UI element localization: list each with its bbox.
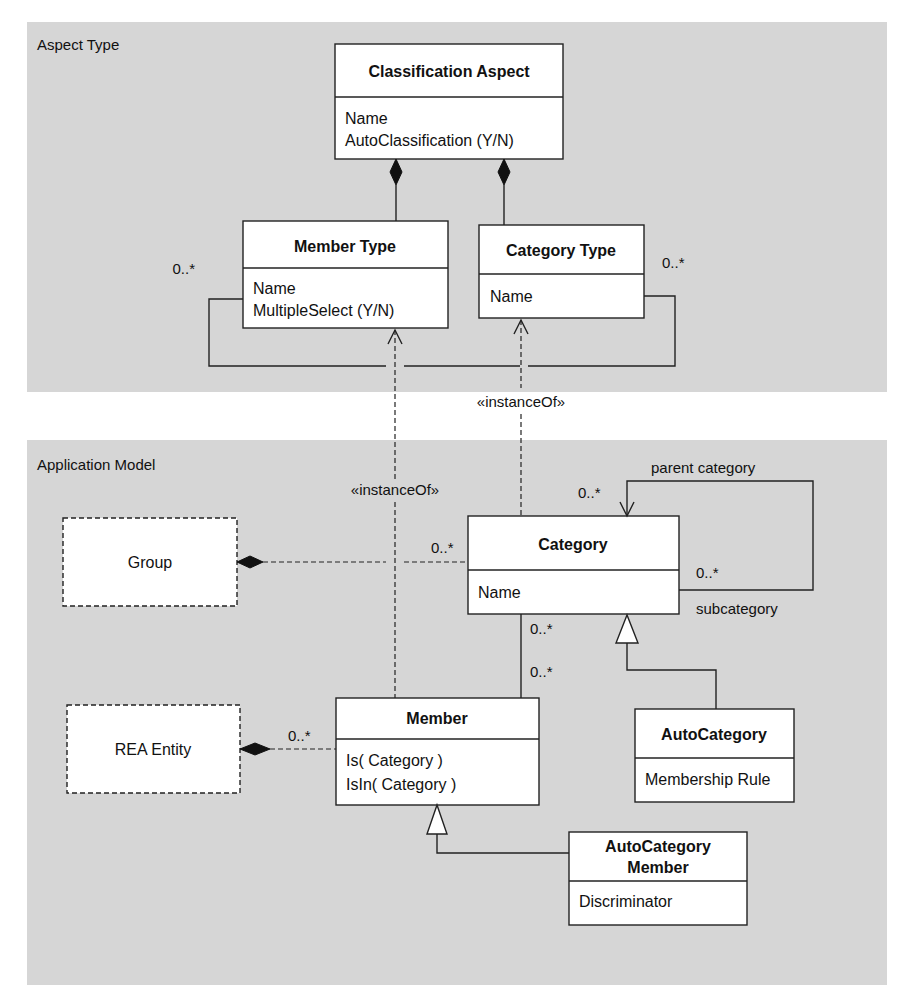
multiplicity-label: 0..* [172,260,195,277]
class-name: REA Entity [115,741,191,758]
multiplicity-label: 0..* [530,620,553,637]
application-model-title: Application Model [37,456,155,473]
class-auto-category: AutoCategory Membership Rule [635,709,794,802]
class-attribute: Name [490,288,533,305]
class-category-type: Category Type Name [479,225,644,318]
class-member-type: Member Type Name MultipleSelect (Y/N) [243,221,448,328]
multiplicity-label: 0..* [431,539,454,556]
class-attribute: Is( Category ) [346,752,443,769]
class-member: Member Is( Category ) IsIn( Category ) [336,698,539,805]
stereotype-label: «instanceOf» [477,393,565,410]
multiplicity-label: 0..* [578,484,601,501]
class-attribute: Name [478,584,521,601]
class-attribute: Name [345,110,388,127]
class-name-line: AutoCategory [605,838,711,855]
aspect-type-title: Aspect Type [37,36,119,53]
class-attribute: Discriminator [579,893,673,910]
class-name-line: Member [627,859,688,876]
class-attribute: Membership Rule [645,771,770,788]
multiplicity-label: 0..* [662,254,685,271]
class-name: Category Type [506,242,616,259]
multiplicity-label: 0..* [696,564,719,581]
class-classification-aspect: Classification Aspect Name AutoClassific… [335,44,563,159]
class-category: Category Name [468,516,679,614]
multiplicity-label: 0..* [530,663,553,680]
uml-class-diagram: Aspect Type Application Model Classifica… [0,0,904,1001]
class-attribute: IsIn( Category ) [346,776,456,793]
class-rea-entity: REA Entity [67,705,240,793]
class-name: Member [406,710,467,727]
role-label: subcategory [696,600,778,617]
class-name: Classification Aspect [368,63,530,80]
class-attribute: Name [253,280,296,297]
class-attribute: AutoClassification (Y/N) [345,132,514,149]
role-label: parent category [651,459,756,476]
class-name: Category [538,536,607,553]
stereotype-label: «instanceOf» [351,481,439,498]
class-group: Group [63,518,237,606]
class-name: Member Type [294,238,396,255]
class-name: Group [128,554,173,571]
multiplicity-label: 0..* [288,727,311,744]
class-attribute: MultipleSelect (Y/N) [253,302,394,319]
class-auto-category-member: AutoCategory Member Discriminator [569,832,747,925]
class-name: AutoCategory [661,726,767,743]
